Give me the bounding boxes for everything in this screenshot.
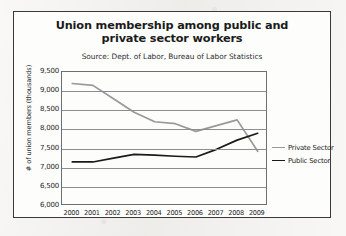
y-axis-tick-label: 6,500 [29, 182, 59, 190]
legend-swatch-public-sector [272, 160, 285, 161]
y-axis-tick-label: 8,000 [29, 124, 59, 132]
gridline [62, 91, 266, 92]
x-axis-tick-label: 2006 [187, 209, 203, 217]
gridline [62, 168, 266, 169]
y-axis-tick-label: 8,500 [29, 105, 59, 113]
plot-container: # of union members (thousands) 6,0006,50… [14, 56, 332, 216]
x-axis-tick-label: 2008 [228, 209, 244, 217]
x-axis-tick-label: 2002 [105, 209, 121, 217]
x-axis-tick-label: 2003 [125, 209, 141, 217]
gridline [62, 187, 266, 188]
y-axis-tick-label: 6,000 [29, 201, 59, 209]
chart-figure: Union membership among public and privat… [13, 11, 331, 218]
legend-label-public-sector: Public Sector [288, 157, 330, 165]
x-axis-tick-label: 2004 [146, 209, 162, 217]
legend-swatch-private-sector [272, 147, 285, 148]
x-axis-tick-labels: 2000200120022003200420052006200720082009 [61, 209, 267, 221]
x-axis-tick-label: 2009 [249, 209, 265, 217]
legend-item-public-sector: Public Sector [272, 155, 330, 166]
legend-label-private-sector: Private Sector [288, 144, 334, 152]
legend-item-private-sector: Private Sector [272, 142, 330, 153]
x-axis-tick-label: 2007 [208, 209, 224, 217]
y-axis-tick-label: 7,000 [29, 163, 59, 171]
y-axis-tick-label: 9,500 [29, 67, 59, 75]
chart-title: Union membership among public and privat… [14, 12, 330, 46]
gridline [62, 110, 266, 111]
x-axis-tick-label: 2005 [167, 209, 183, 217]
gridline [62, 149, 266, 150]
y-axis-tick-label: 7,500 [29, 144, 59, 152]
series-line-private-sector [72, 83, 257, 151]
chart-legend: Private Sector Public Sector [272, 142, 330, 168]
y-axis-tick-labels: 6,0006,5007,0007,5008,0008,5009,0009,500 [28, 56, 59, 206]
y-axis-tick-label: 9,000 [29, 86, 59, 94]
gridline [62, 129, 266, 130]
x-axis-tick-label: 2000 [64, 209, 80, 217]
x-axis-tick-label: 2001 [84, 209, 100, 217]
plot-area [61, 71, 267, 205]
